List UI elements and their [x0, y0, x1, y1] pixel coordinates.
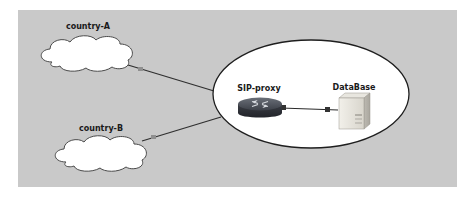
node-label-database: DataBase [333, 83, 376, 92]
node-label-country-a: country-A [66, 22, 110, 31]
link-port-marker [325, 107, 330, 112]
link-endpoint-marker [151, 135, 156, 139]
server-icon[interactable] [339, 93, 370, 129]
router-icon[interactable] [238, 98, 282, 118]
link-country-b-to-core[interactable] [142, 117, 221, 141]
link-endpoint-marker [138, 67, 143, 71]
core-network-ellipse[interactable] [213, 40, 409, 148]
node-label-sip-proxy: SIP-proxy [237, 84, 280, 93]
link-country-a-to-core[interactable] [128, 65, 214, 91]
cloud-country-b[interactable] [55, 136, 146, 172]
cloud-country-a[interactable] [41, 36, 132, 72]
node-label-country-b: country-B [79, 124, 123, 133]
